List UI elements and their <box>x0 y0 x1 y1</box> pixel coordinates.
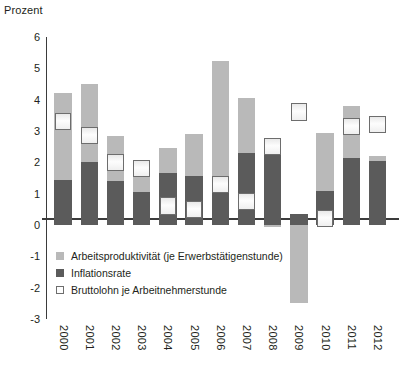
x-axis-tick-2011: 2011 <box>346 325 357 350</box>
legend-item-label: Bruttolohn je Arbeitnehmerstunde <box>71 284 227 296</box>
gross-wage-marker <box>291 103 308 121</box>
bar-segment-productivity <box>369 156 387 161</box>
y-axis-tick-0: 0 <box>34 220 40 231</box>
legend-item[interactable]: Inflationsrate <box>56 265 356 280</box>
bar-segment-productivity <box>185 134 203 176</box>
x-axis-tick-2009: 2009 <box>293 325 304 351</box>
legend-item-label: Inflationsrate <box>71 267 131 279</box>
bar-segment-inflation <box>133 192 151 225</box>
bar-segment-productivity <box>159 148 177 173</box>
bar-segment-productivity <box>264 225 282 227</box>
bar-segment-inflation <box>369 161 387 225</box>
x-axis-tick-2007: 2007 <box>241 325 252 351</box>
y-axis-tick-1: 1 <box>34 188 40 199</box>
gross-wage-marker <box>238 193 255 211</box>
y-axis-line <box>46 37 47 319</box>
legend-item[interactable]: Bruttolohn je Arbeitnehmerstunde <box>56 282 356 297</box>
chart-legend: Arbeitsproduktivität (je Erwerbstätigens… <box>56 248 356 299</box>
legend-item-label: Arbeitsproduktivität (je Erwerbstätigens… <box>71 250 283 262</box>
y-axis-tick-neg1: -1 <box>30 251 40 262</box>
gross-wage-marker <box>317 210 334 228</box>
bar-segment-productivity <box>81 84 99 162</box>
gross-wage-marker <box>343 118 360 136</box>
bar-segment-inflation <box>238 153 256 225</box>
bar-segment-inflation <box>107 181 125 225</box>
bar-segment-inflation <box>290 214 308 225</box>
bar-segment-productivity <box>316 133 334 191</box>
y-axis-tick-3: 3 <box>34 126 40 137</box>
bar-chart: Prozent 6543210-1-2-3 200020012002200320… <box>0 0 413 365</box>
bar-segment-productivity <box>238 98 256 153</box>
inflation-swatch-icon <box>56 269 64 277</box>
bar-group <box>364 37 390 319</box>
y-axis-tick-5: 5 <box>34 63 40 74</box>
gross-wage-marker <box>81 127 98 145</box>
x-axis-tick-2002: 2002 <box>110 325 121 351</box>
gross-wage-marker <box>369 116 386 134</box>
gross-wage-marker <box>133 160 150 178</box>
gross-wage-swatch-icon <box>56 286 64 294</box>
bar-segment-inflation <box>264 144 282 225</box>
gross-wage-marker <box>186 201 203 219</box>
productivity-swatch-icon <box>56 252 64 260</box>
bar-segment-productivity <box>212 61 230 177</box>
x-axis-tick-2008: 2008 <box>267 325 278 351</box>
gross-wage-marker <box>55 113 72 131</box>
y-axis-tick-neg2: -2 <box>30 282 40 293</box>
bar-segment-inflation <box>343 158 361 225</box>
x-axis-tick-2001: 2001 <box>84 325 95 351</box>
x-axis-tick-2000: 2000 <box>58 325 69 351</box>
gross-wage-marker <box>264 138 281 156</box>
y-axis-tick-neg3: -3 <box>30 314 40 325</box>
x-axis-tick-2005: 2005 <box>189 325 200 351</box>
x-axis-tick-2006: 2006 <box>215 325 226 351</box>
bar-segment-productivity <box>54 93 72 179</box>
x-axis-tick-2003: 2003 <box>136 325 147 351</box>
bar-segment-inflation <box>81 162 99 225</box>
gross-wage-marker <box>160 197 177 215</box>
gross-wage-marker <box>107 154 124 172</box>
x-axis-tick-2012: 2012 <box>372 325 383 351</box>
bar-segment-inflation <box>54 180 72 225</box>
y-axis-tick-2: 2 <box>34 157 40 168</box>
legend-item[interactable]: Arbeitsproduktivität (je Erwerbstätigens… <box>56 248 356 263</box>
x-axis-tick-2004: 2004 <box>162 325 173 351</box>
y-axis-tick-4: 4 <box>34 94 40 105</box>
y-axis-unit-label: Prozent <box>4 4 43 17</box>
x-axis-tick-2010: 2010 <box>320 325 331 351</box>
y-axis-tick-6: 6 <box>34 32 40 43</box>
gross-wage-marker <box>212 176 229 194</box>
